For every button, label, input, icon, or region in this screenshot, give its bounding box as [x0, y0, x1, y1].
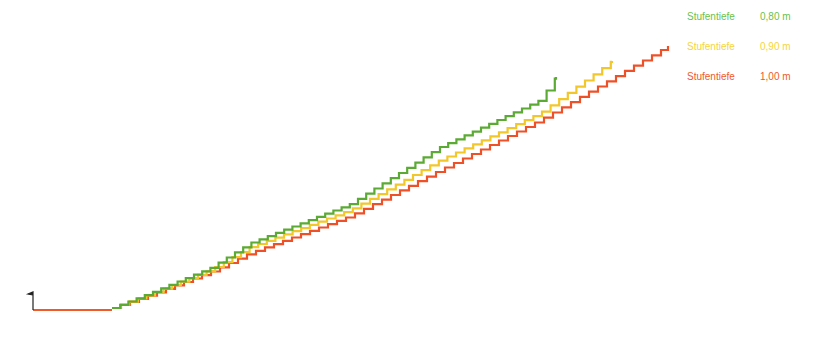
legend-value: 1,00 m	[760, 71, 791, 83]
start-flag-icon	[28, 292, 33, 310]
stair-line-080	[112, 77, 556, 308]
legend-value: 0,80 m	[760, 11, 791, 23]
legend-value: 0,90 m	[760, 41, 791, 53]
legend-label: Stufentiefe	[687, 11, 735, 23]
legend-label: Stufentiefe	[687, 41, 735, 53]
stair-line-090	[112, 61, 612, 308]
legend-label: Stufentiefe	[687, 71, 735, 83]
